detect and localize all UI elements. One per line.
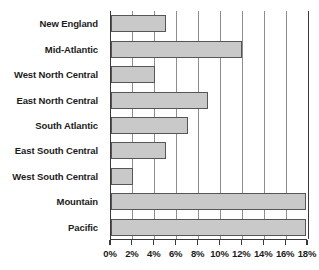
bar-east-north-central	[111, 92, 208, 109]
bar-mid-atlantic	[111, 41, 242, 58]
x-tick-label: 14%	[254, 247, 272, 261]
x-tick	[285, 240, 286, 245]
x-tick	[131, 240, 132, 245]
category-label-mountain: Mountain	[57, 193, 98, 210]
category-label-west-north-central: West North Central	[14, 66, 98, 83]
x-axis-tick-labels: 0%2%4%6%8%10%12%14%16%18%	[110, 247, 307, 263]
x-tick-label: 8%	[191, 247, 204, 261]
x-tick	[109, 240, 110, 245]
x-tick	[263, 240, 264, 245]
x-tick-label: 16%	[276, 247, 294, 261]
category-label-pacific: Pacific	[68, 219, 98, 236]
x-tick-label: 0%	[103, 247, 116, 261]
bar-east-south-central	[111, 142, 166, 159]
x-tick-label: 2%	[125, 247, 138, 261]
bar-new-england	[111, 15, 166, 32]
x-axis-ticks	[110, 240, 307, 246]
plot-area	[110, 11, 307, 240]
bar-series	[111, 11, 307, 239]
category-label-east-south-central: East South Central	[15, 142, 98, 159]
bar-south-atlantic	[111, 117, 188, 134]
bar-chart-figure: New EnglandMid-AtlanticWest North Centra…	[0, 0, 319, 270]
category-axis-labels: New EnglandMid-AtlanticWest North Centra…	[0, 11, 104, 240]
bar-west-north-central	[111, 66, 155, 83]
category-label-west-south-central: West South Central	[12, 168, 98, 185]
category-label-south-atlantic: South Atlantic	[35, 117, 98, 134]
x-tick	[306, 240, 307, 245]
x-tick	[197, 240, 198, 245]
x-tick-label: 12%	[232, 247, 250, 261]
x-tick	[153, 240, 154, 245]
bar-pacific	[111, 219, 306, 236]
category-label-east-north-central: East North Central	[16, 92, 98, 109]
x-tick	[219, 240, 220, 245]
gridline	[308, 11, 310, 239]
category-label-mid-atlantic: Mid-Atlantic	[45, 41, 98, 58]
category-label-new-england: New England	[39, 15, 98, 32]
x-tick-label: 10%	[210, 247, 228, 261]
x-tick-label: 6%	[169, 247, 182, 261]
x-tick-label: 4%	[147, 247, 160, 261]
x-tick	[241, 240, 242, 245]
x-tick	[175, 240, 176, 245]
bar-west-south-central	[111, 168, 133, 185]
bar-mountain	[111, 193, 306, 210]
x-tick-label: 18%	[298, 247, 316, 261]
